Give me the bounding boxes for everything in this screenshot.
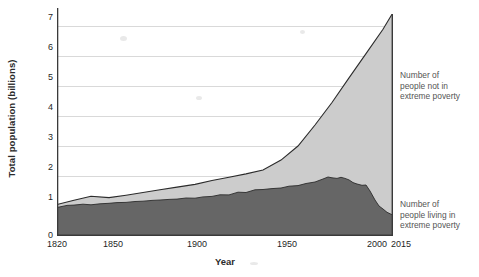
y-tick-label-4: 4 xyxy=(31,103,53,112)
y-tick-label-1: 1 xyxy=(31,193,53,202)
x-tick-label-1820: 1820 xyxy=(37,240,77,249)
chart-figure: Total population (billions) 7 6 5 4 3 2 … xyxy=(0,0,479,277)
y-tick-label-7: 7 xyxy=(31,13,53,22)
annotation-lower-line-2: people living in xyxy=(400,210,476,221)
annotation-lower-line-3: extreme poverty xyxy=(400,220,476,231)
area-chart-svg xyxy=(57,8,393,236)
x-axis-title: Year xyxy=(57,256,393,267)
annotation-upper-line-3: extreme poverty xyxy=(400,91,476,102)
y-tick-label-2: 2 xyxy=(31,163,53,172)
x-tick-label-2015: 2015 xyxy=(381,240,421,249)
x-tick-label-1850: 1850 xyxy=(93,240,133,249)
annotation-upper-line-2: people not in xyxy=(400,81,476,92)
plot-area xyxy=(57,8,393,236)
y-tick-label-6: 6 xyxy=(31,43,53,52)
y-axis-title-text: Total population (billions) xyxy=(6,59,17,177)
y-tick-label-5: 5 xyxy=(31,73,53,82)
annotation-upper-line-1: Number of xyxy=(400,70,476,81)
y-axis-title: Total population (billions) xyxy=(2,0,20,236)
x-tick-label-1950: 1950 xyxy=(267,240,307,249)
x-tick-label-1900: 1900 xyxy=(177,240,217,249)
annotation-not-in-extreme-poverty: Number of people not in extreme poverty xyxy=(400,70,476,102)
annotation-lower-line-1: Number of xyxy=(400,199,476,210)
y-tick-label-3: 3 xyxy=(31,133,53,142)
annotation-living-in-extreme-poverty: Number of people living in extreme pover… xyxy=(400,199,476,231)
